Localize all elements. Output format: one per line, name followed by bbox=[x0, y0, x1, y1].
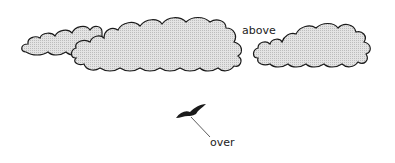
label-above: above bbox=[242, 24, 276, 37]
pointer-line bbox=[191, 117, 210, 137]
label-over: over bbox=[210, 136, 235, 149]
illustration-canvas bbox=[0, 0, 395, 163]
cloud-middle bbox=[72, 18, 242, 72]
bird-icon bbox=[176, 104, 206, 118]
